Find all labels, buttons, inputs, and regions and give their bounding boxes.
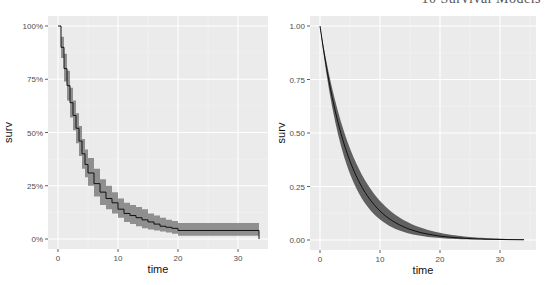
x-tick-label: 10 (114, 254, 123, 263)
y-tick-label: 75% (27, 75, 43, 84)
chart-panel-1: 0%25%50%75%100%0102030timesurv (2, 16, 268, 275)
y-tick-label: 0.25 (289, 183, 305, 192)
y-tick-label: 0.50 (289, 129, 305, 138)
x-tick-label: 30 (234, 254, 243, 263)
y-tick-label: 1.00 (289, 22, 305, 31)
x-tick-label: 20 (174, 254, 183, 263)
x-tick-label: 10 (376, 255, 385, 264)
x-tick-label: 0 (318, 255, 323, 264)
x-tick-label: 0 (56, 254, 61, 263)
x-axis-title: time (148, 263, 169, 275)
y-tick-label: 25% (27, 182, 43, 191)
y-tick-label: 0.00 (289, 236, 305, 245)
y-tick-label: 0% (31, 235, 43, 244)
y-tick-label: 50% (27, 129, 43, 138)
y-tick-label: 0.75 (289, 76, 305, 85)
y-axis-title: surv (2, 122, 14, 143)
chart-panel-2: 0.000.250.500.751.000102030timesurv (275, 16, 536, 276)
y-tick-label: 100% (23, 22, 43, 31)
x-tick-label: 30 (496, 255, 505, 264)
x-axis-title: time (413, 264, 434, 276)
y-axis-title: surv (275, 122, 287, 143)
charts: 0%25%50%75%100%0102030timesurv0.000.250.… (0, 0, 545, 285)
x-tick-label: 20 (436, 255, 445, 264)
